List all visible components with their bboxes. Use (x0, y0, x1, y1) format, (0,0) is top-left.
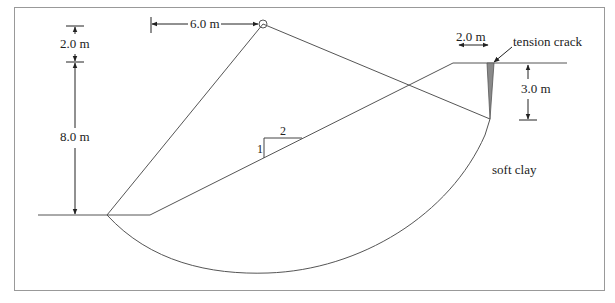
slope-ratio-indicator: 1 2 (257, 124, 302, 158)
soil-label: soft clay (492, 162, 537, 177)
dim-crack-offset: 2.0 m (456, 29, 488, 45)
slope-diagram: 6.0 m 2.0 m 8.0 m 1 2 2.0 m tension crac… (0, 0, 615, 303)
svg-text:2.0 m: 2.0 m (456, 29, 486, 44)
slip-surface-arc (107, 119, 490, 273)
frame-border (15, 8, 605, 291)
dim-center-offset: 6.0 m (151, 16, 258, 33)
tension-crack-label: tension crack (494, 34, 582, 62)
radius-lines (107, 24, 490, 215)
svg-text:2: 2 (280, 124, 286, 138)
svg-text:6.0 m: 6.0 m (190, 16, 220, 31)
svg-text:tension crack: tension crack (513, 34, 582, 49)
dim-heights: 2.0 m 8.0 m (60, 26, 90, 214)
dim-crack-depth: 3.0 m (519, 65, 551, 120)
ground-profile (38, 63, 567, 215)
tension-crack (487, 63, 494, 119)
svg-text:1: 1 (257, 142, 263, 156)
svg-text:3.0 m: 3.0 m (521, 81, 551, 96)
svg-text:2.0 m: 2.0 m (60, 36, 90, 51)
svg-text:8.0 m: 8.0 m (60, 129, 90, 144)
